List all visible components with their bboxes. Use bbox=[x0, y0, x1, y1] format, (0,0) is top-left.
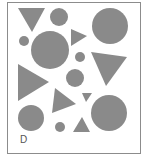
circle-bottom-left bbox=[18, 105, 44, 131]
figure-label: D bbox=[20, 135, 27, 145]
circle-middle bbox=[66, 69, 84, 87]
circle-top-right-large bbox=[92, 8, 128, 44]
circle-top-small bbox=[50, 8, 68, 26]
triangle-bottom-up bbox=[73, 117, 90, 132]
circle-bottom-right-large bbox=[91, 95, 127, 131]
circle-bottom-small bbox=[55, 122, 65, 132]
triangle-tiny bbox=[82, 93, 92, 102]
shapes-group bbox=[18, 8, 128, 132]
triangle-top-left-down bbox=[18, 8, 45, 32]
circle-center-right-tiny bbox=[75, 52, 85, 62]
triangle-middle bbox=[52, 88, 76, 113]
triangle-right-down bbox=[91, 52, 127, 86]
circle-left-tiny bbox=[19, 36, 29, 46]
triangle-left-large-right bbox=[18, 64, 49, 101]
triangle-small-right bbox=[71, 29, 87, 46]
shape-figure: D bbox=[0, 0, 143, 157]
circle-center-large bbox=[31, 31, 69, 69]
